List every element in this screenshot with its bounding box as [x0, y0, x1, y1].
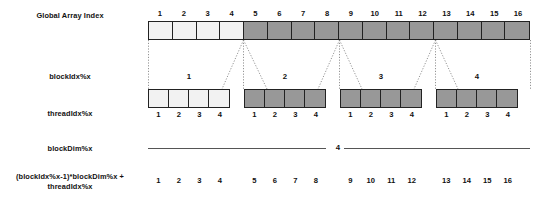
- global-array-cell[interactable]: [268, 22, 292, 39]
- thread-idx-tick: 2: [457, 110, 478, 120]
- thread-idx-tick: 2: [265, 110, 286, 120]
- thread-idx-tick: 4: [210, 110, 231, 120]
- global-array-cell[interactable]: [149, 22, 173, 39]
- thread-cell[interactable]: [285, 90, 305, 107]
- thread-cell[interactable]: [381, 90, 401, 107]
- global-array-cell[interactable]: [363, 22, 387, 39]
- thread-idx-tick: 1: [148, 110, 169, 120]
- row-label-block-dim: blockDim%x: [0, 144, 140, 153]
- global-array-cell[interactable]: [410, 22, 434, 39]
- global-array-tick: 3: [196, 9, 220, 19]
- global-array-cell[interactable]: [387, 22, 411, 39]
- row-label-global-index-formula: (blockIdx%x-1)*blockDim%x + threadIdx%x: [0, 172, 140, 191]
- block-dim-line-left: [148, 148, 326, 149]
- global-array-cell[interactable]: [197, 22, 221, 39]
- thread-idx-tick: 3: [477, 110, 498, 120]
- thread-idx-tick: 3: [285, 110, 306, 120]
- global-array-tick: 7: [291, 9, 315, 19]
- thread-cell[interactable]: [245, 90, 265, 107]
- global-array-tick: 11: [387, 9, 411, 19]
- global-index-value-group: 9101112: [340, 176, 422, 186]
- thread-block-cells: [148, 89, 230, 108]
- global-index-value: 1: [148, 176, 169, 186]
- global-index-value: 5: [244, 176, 265, 186]
- global-array-tick: 14: [458, 9, 482, 19]
- thread-idx-tick-row: 1234: [148, 110, 230, 120]
- thread-idx-tick: 4: [498, 110, 519, 120]
- block-dim-line-right: [344, 148, 530, 149]
- global-index-value: 12: [402, 176, 423, 186]
- global-array-cell[interactable]: [505, 22, 529, 39]
- global-array-tick-row: 12345678910111213141516: [148, 9, 530, 19]
- global-index-value-group: 5678: [244, 176, 326, 186]
- row-label-block-idx: blockIdx%x: [0, 72, 140, 81]
- global-array-tick: 13: [435, 9, 459, 19]
- global-index-value: 13: [436, 176, 457, 186]
- global-index-value: 9: [340, 176, 361, 186]
- global-index-value: 4: [210, 176, 231, 186]
- thread-idx-tick: 1: [340, 110, 361, 120]
- formula-line-2: threadIdx%x: [0, 182, 140, 192]
- thread-cell[interactable]: [401, 90, 421, 107]
- global-index-value: 2: [169, 176, 190, 186]
- global-index-value: 16: [498, 176, 519, 186]
- global-array-cell[interactable]: [458, 22, 482, 39]
- thread-idx-tick: 2: [361, 110, 382, 120]
- global-index-value: 6: [265, 176, 286, 186]
- global-array-cell[interactable]: [315, 22, 339, 39]
- thread-cell[interactable]: [305, 90, 325, 107]
- global-array-tick: 16: [506, 9, 530, 19]
- global-array-tick: 6: [267, 9, 291, 19]
- thread-cell[interactable]: [341, 90, 361, 107]
- block-idx-value: 3: [340, 72, 422, 81]
- thread-block-cells: [340, 89, 422, 108]
- thread-cell[interactable]: [209, 90, 229, 107]
- thread-idx-tick: 2: [169, 110, 190, 120]
- global-index-value: 3: [189, 176, 210, 186]
- global-index-value: 15: [477, 176, 498, 186]
- global-array-cell[interactable]: [292, 22, 316, 39]
- row-label-thread-idx: threadIdx%x: [0, 109, 140, 118]
- thread-block-cells: [436, 89, 518, 108]
- block-idx-value: 2: [244, 72, 326, 81]
- thread-cell[interactable]: [265, 90, 285, 107]
- block-idx-value: 1: [148, 72, 230, 81]
- global-array-cell[interactable]: [339, 22, 363, 39]
- thread-cell[interactable]: [457, 90, 477, 107]
- global-index-value: 10: [361, 176, 382, 186]
- global-array-tick: 5: [244, 9, 268, 19]
- global-array-tick: 4: [220, 9, 244, 19]
- global-index-value: 11: [381, 176, 402, 186]
- thread-idx-tick: 3: [189, 110, 210, 120]
- thread-idx-tick: 1: [244, 110, 265, 120]
- block-idx-value: 4: [436, 72, 518, 81]
- global-array-tick: 8: [315, 9, 339, 19]
- global-array-cell[interactable]: [482, 22, 506, 39]
- thread-cell[interactable]: [189, 90, 209, 107]
- thread-idx-tick-row: 1234: [340, 110, 422, 120]
- row-label-global-array-index: Global Array Index: [0, 11, 140, 20]
- global-index-value-group: 13141516: [436, 176, 518, 186]
- global-array-cell[interactable]: [173, 22, 197, 39]
- thread-idx-tick: 1: [436, 110, 457, 120]
- thread-block-cells: [244, 89, 326, 108]
- thread-cell[interactable]: [477, 90, 497, 107]
- formula-line-1: (blockIdx%x-1)*blockDim%x +: [0, 172, 140, 182]
- global-array-cell[interactable]: [434, 22, 458, 39]
- global-array-tick: 12: [411, 9, 435, 19]
- thread-cell[interactable]: [437, 90, 457, 107]
- thread-cell[interactable]: [361, 90, 381, 107]
- global-index-value: 7: [285, 176, 306, 186]
- global-array-tick: 15: [482, 9, 506, 19]
- global-index-value: 14: [457, 176, 478, 186]
- global-array-cell[interactable]: [220, 22, 244, 39]
- global-array-cell[interactable]: [244, 22, 268, 39]
- thread-cell[interactable]: [169, 90, 189, 107]
- global-array-tick: 1: [148, 9, 172, 19]
- thread-idx-tick-row: 1234: [436, 110, 518, 120]
- thread-cell[interactable]: [149, 90, 169, 107]
- global-index-value: 8: [306, 176, 327, 186]
- global-array-tick: 2: [172, 9, 196, 19]
- global-index-value-group: 1234: [148, 176, 230, 186]
- thread-cell[interactable]: [497, 90, 517, 107]
